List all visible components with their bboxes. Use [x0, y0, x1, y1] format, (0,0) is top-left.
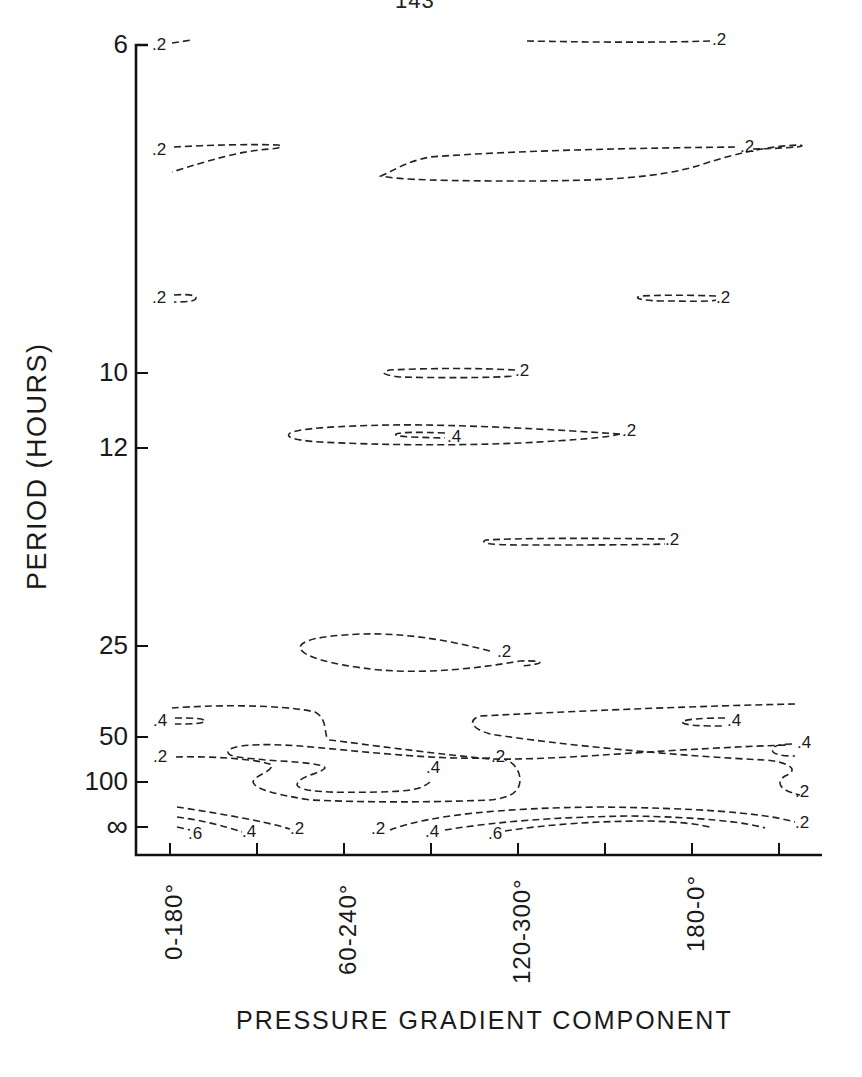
contour-figure: 143	[0, 0, 862, 1077]
x-ticks	[170, 843, 779, 855]
x-tick-label: 60-240°	[334, 884, 362, 975]
contour-label: .2	[491, 747, 505, 766]
x-tick-label: 180-0°	[682, 875, 710, 952]
plot-axes	[136, 45, 822, 855]
contour-label: .2	[152, 288, 166, 307]
contour-label: .2	[716, 288, 730, 307]
contour-label: .4	[447, 427, 461, 446]
contour-label: .4	[242, 822, 256, 841]
contour-label: .2	[290, 819, 304, 838]
x-axis-title: PRESSURE GRADIENT COMPONENT	[236, 1006, 733, 1035]
contour-label: .2	[622, 421, 636, 440]
contour-label: .2	[152, 35, 166, 54]
y-tick-label: 100	[38, 766, 128, 797]
y-ticks	[136, 373, 148, 827]
x-tick-label: 0-180°	[160, 883, 188, 960]
contour-label: .2	[497, 642, 511, 661]
y-tick-label: ∞	[38, 809, 128, 843]
contour-label: .2	[152, 140, 166, 159]
y-tick-label: 25	[38, 630, 128, 661]
contour-label: .2	[371, 819, 385, 838]
contour-label: .4	[797, 733, 811, 752]
contour-label: .2	[795, 813, 809, 832]
x-tick-label: 120-300°	[508, 878, 536, 984]
contour-plot: .2 .2 .2 .2 .2 .2 .2 .4 .2 .2 .2 .4 .4 .…	[0, 0, 862, 1077]
contour-label: .4	[426, 758, 440, 777]
contour-label: .2	[515, 361, 529, 380]
y-axis-title: PERIOD (HOURS)	[22, 342, 53, 590]
contour-label: .4	[425, 822, 439, 841]
contour-label: .2	[153, 747, 167, 766]
contour-label: .2	[795, 782, 809, 801]
contour-label: .4	[153, 711, 167, 730]
contour-label: .6	[488, 824, 502, 843]
y-tick-label: 50	[38, 721, 128, 752]
contour-label: .2	[740, 137, 754, 156]
contour-label: .2	[712, 30, 726, 49]
contour-label: .6	[188, 824, 202, 843]
contour-label: .2	[665, 530, 679, 549]
contour-label: .4	[727, 711, 741, 730]
contour-lines	[172, 40, 802, 832]
y-tick-label: 6	[38, 29, 128, 60]
